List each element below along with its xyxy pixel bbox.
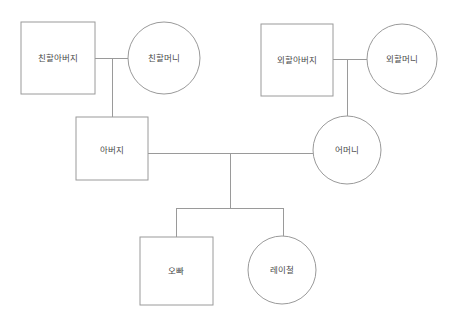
node-label-paternal-grandmother: 친할머니 (148, 53, 181, 63)
genogram-canvas: 친할아버지 친할머니 외할아버지 외할머니 아버지 (0, 0, 454, 328)
node-label-father: 아버지 (100, 145, 125, 155)
node-self[interactable]: 레이철 (248, 236, 316, 304)
node-maternal-grandmother[interactable]: 외할머니 (367, 24, 437, 94)
node-brother[interactable]: 오빠 (140, 237, 213, 305)
node-label-brother: 오빠 (168, 266, 184, 276)
node-label-self: 레이철 (270, 265, 295, 275)
node-paternal-grandfather[interactable]: 친할아버지 (21, 22, 95, 94)
node-mother[interactable]: 어머니 (313, 116, 381, 184)
node-label-mother: 어머니 (335, 145, 360, 155)
node-father[interactable]: 아버지 (76, 117, 148, 180)
node-paternal-grandmother[interactable]: 친할머니 (128, 22, 200, 94)
node-label-maternal-grandfather: 외할아버지 (277, 55, 318, 65)
genogram-diagram: 친할아버지 친할머니 외할아버지 외할머니 아버지 (0, 0, 454, 328)
node-maternal-grandfather[interactable]: 외할아버지 (261, 24, 333, 96)
node-label-maternal-grandmother: 외할머니 (386, 54, 419, 64)
node-layer: 친할아버지 친할머니 외할아버지 외할머니 아버지 (21, 22, 437, 305)
node-label-paternal-grandfather: 친할아버지 (38, 53, 79, 63)
